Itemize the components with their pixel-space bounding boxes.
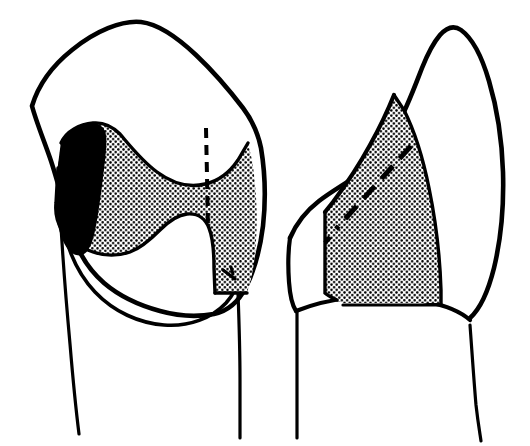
tooth-diagram-svg: Tooth preparation outline diagram [0,0,530,446]
left-panel-lower-tick-dash-2 [231,267,233,274]
figure-root: Tooth preparation outline diagram [0,0,530,446]
